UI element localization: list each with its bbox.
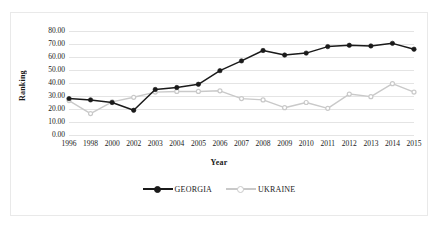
y-tick-label: 50.00 <box>28 66 65 74</box>
legend-item-georgia[interactable]: GEORGIA <box>143 184 212 194</box>
data-point <box>132 95 136 99</box>
legend-marker-georgia <box>154 186 161 193</box>
y-tick-label: 80.00 <box>28 27 65 35</box>
data-point <box>218 68 222 72</box>
y-tick-label: 40.00 <box>28 79 65 87</box>
data-point <box>196 82 200 86</box>
data-point <box>390 82 394 86</box>
legend-marker-ukraine <box>237 186 244 193</box>
legend-item-ukraine[interactable]: UKRAINE <box>226 184 295 194</box>
series-lines <box>69 31 414 135</box>
y-axis-tick-labels: 80.0070.0060.0050.0040.0030.0020.0010.00… <box>28 24 65 142</box>
data-point <box>304 51 308 55</box>
data-point <box>283 106 287 110</box>
x-tick-label: 2005 <box>191 139 206 148</box>
data-point <box>326 106 330 110</box>
x-tick-label: 2010 <box>299 139 314 148</box>
legend-label-ukraine: UKRAINE <box>258 185 295 194</box>
data-point <box>153 87 157 91</box>
data-point <box>110 100 114 104</box>
y-tick-label: 0.00 <box>28 131 65 139</box>
data-point <box>326 44 330 48</box>
data-point <box>412 90 416 94</box>
data-point <box>304 101 308 105</box>
data-point <box>196 89 200 93</box>
x-tick-label: 1998 <box>83 139 98 148</box>
data-point <box>347 92 351 96</box>
data-point <box>390 41 394 45</box>
y-tick-label: 60.00 <box>28 53 65 61</box>
data-point <box>131 108 135 112</box>
x-tick-label: 2008 <box>256 139 271 148</box>
x-tick-label: 2012 <box>342 139 357 148</box>
data-point <box>261 48 265 52</box>
x-tick-label: 2009 <box>277 139 292 148</box>
data-point <box>67 96 71 100</box>
y-tick-label: 10.00 <box>28 118 65 126</box>
ranking-line-chart: Ranking 80.0070.0060.0050.0040.0030.0020… <box>0 0 438 229</box>
y-tick-label: 70.00 <box>28 40 65 48</box>
x-axis-tick-labels: 1996199820002002200320042005200620072008… <box>69 139 414 153</box>
data-point <box>347 43 351 47</box>
chart-legend: GEORGIA UKRAINE <box>0 184 438 194</box>
gridline <box>69 135 414 136</box>
data-point <box>282 53 286 57</box>
x-tick-label: 2013 <box>363 139 378 148</box>
x-tick-label: 2011 <box>320 139 335 148</box>
y-tick-label: 30.00 <box>28 92 65 100</box>
data-point <box>369 44 373 48</box>
x-tick-label: 1996 <box>62 139 77 148</box>
x-tick-label: 2007 <box>234 139 249 148</box>
plot-area <box>69 31 414 135</box>
legend-swatch-georgia <box>143 184 173 194</box>
x-tick-label: 2015 <box>407 139 422 148</box>
x-tick-label: 2014 <box>385 139 400 148</box>
data-point <box>239 59 243 63</box>
x-tick-label: 2003 <box>148 139 163 148</box>
x-axis-title: Year <box>0 158 438 167</box>
data-point <box>369 95 373 99</box>
legend-swatch-ukraine <box>226 184 256 194</box>
data-point <box>89 112 93 116</box>
legend-label-georgia: GEORGIA <box>175 185 212 194</box>
y-tick-label: 20.00 <box>28 105 65 113</box>
x-tick-label: 2000 <box>105 139 120 148</box>
data-point <box>412 47 416 51</box>
data-point <box>175 85 179 89</box>
data-point <box>88 98 92 102</box>
x-tick-label: 2002 <box>126 139 141 148</box>
data-point <box>218 89 222 93</box>
x-tick-label: 2004 <box>169 139 184 148</box>
data-point <box>261 98 265 102</box>
data-point <box>240 97 244 101</box>
x-tick-label: 2006 <box>212 139 227 148</box>
